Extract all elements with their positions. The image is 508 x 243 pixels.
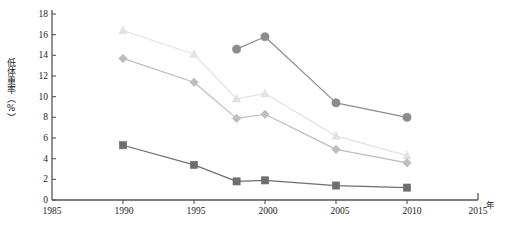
- data-point-square: [119, 142, 126, 149]
- data-point-square: [403, 184, 410, 191]
- data-point-circle: [332, 99, 340, 107]
- data-point-circle: [261, 33, 269, 41]
- data-point-triangle: [261, 89, 269, 97]
- data-point-diamond: [261, 110, 270, 119]
- data-point-square: [332, 182, 339, 189]
- data-point-circle: [403, 113, 411, 121]
- data-point-diamond: [119, 54, 128, 63]
- data-point-square: [233, 178, 240, 185]
- data-point-square: [261, 177, 268, 184]
- chart-figure: 低体重率（%） 18 16 14 12 10 8 6 4 2 0 1985 19…: [0, 0, 508, 243]
- series-square: [119, 142, 410, 192]
- data-point-circle: [233, 45, 241, 53]
- data-point-square: [190, 161, 197, 168]
- series-diamond: [119, 54, 412, 167]
- series-triangle: [119, 26, 411, 159]
- data-point-diamond: [403, 159, 412, 168]
- data-point-triangle: [119, 26, 127, 34]
- series-line-circle: [237, 37, 407, 118]
- data-point-triangle: [332, 131, 340, 139]
- plot-area: [0, 0, 508, 243]
- data-point-diamond: [332, 145, 341, 154]
- series-circle: [233, 33, 412, 122]
